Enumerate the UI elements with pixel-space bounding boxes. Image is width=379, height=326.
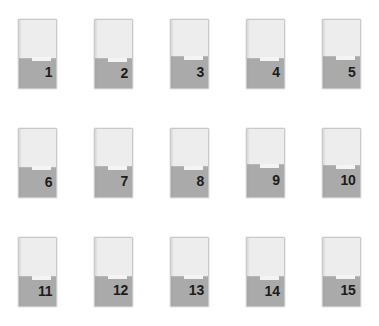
card-number-label-9: 9 [272, 173, 280, 187]
card-label-stripe-10 [336, 165, 355, 169]
numbered-card-14[interactable]: 14 [246, 237, 285, 307]
card-number-label-8: 8 [196, 174, 204, 188]
numbered-card-11[interactable]: 11 [18, 237, 57, 307]
card-label-stripe-9 [260, 164, 279, 168]
card-label-stripe-6 [32, 166, 51, 170]
card-number-label-3: 3 [196, 65, 204, 79]
numbered-card-10[interactable]: 10 [322, 128, 361, 198]
grid-cell-11: 11 [0, 217, 76, 326]
card-label-stripe-3 [184, 56, 203, 60]
numbered-card-1[interactable]: 1 [18, 19, 57, 89]
grid-cell-2: 2 [76, 0, 152, 109]
grid-cell-13: 13 [152, 217, 228, 326]
numbered-card-6[interactable]: 6 [18, 128, 57, 198]
grid-cell-1: 1 [0, 0, 76, 109]
card-number-label-1: 1 [45, 65, 53, 79]
card-label-stripe-14 [260, 276, 279, 280]
card-label-stripe-8 [184, 166, 203, 170]
card-grid-canvas: 1 2 3 4 [0, 0, 379, 326]
grid-cell-3: 3 [152, 0, 228, 109]
numbered-card-15[interactable]: 15 [322, 237, 361, 307]
card-label-stripe-11 [32, 276, 51, 280]
grid-cell-15: 15 [303, 217, 379, 326]
card-grid: 1 2 3 4 [0, 0, 379, 326]
grid-cell-8: 8 [152, 109, 228, 218]
grid-cell-5: 5 [303, 0, 379, 109]
card-label-stripe-5 [336, 56, 355, 60]
numbered-card-12[interactable]: 12 [94, 237, 133, 307]
card-label-stripe-7 [108, 166, 127, 170]
numbered-card-7[interactable]: 7 [94, 128, 133, 198]
grid-cell-9: 9 [227, 109, 303, 218]
numbered-card-2[interactable]: 2 [94, 19, 133, 89]
card-number-label-11: 11 [38, 284, 52, 298]
card-label-stripe-1 [32, 57, 51, 61]
card-number-label-10: 10 [340, 173, 355, 187]
numbered-card-9[interactable]: 9 [246, 128, 285, 198]
card-number-label-5: 5 [348, 65, 356, 79]
card-number-label-14: 14 [265, 284, 280, 298]
card-number-label-4: 4 [272, 65, 280, 79]
numbered-card-8[interactable]: 8 [170, 128, 209, 198]
card-number-label-13: 13 [189, 283, 204, 297]
card-number-label-7: 7 [121, 174, 129, 188]
numbered-card-3[interactable]: 3 [170, 19, 209, 89]
card-label-stripe-2 [108, 58, 127, 62]
numbered-card-13[interactable]: 13 [170, 237, 209, 307]
grid-cell-4: 4 [227, 0, 303, 109]
grid-cell-14: 14 [227, 217, 303, 326]
card-number-label-12: 12 [113, 283, 128, 297]
numbered-card-4[interactable]: 4 [246, 19, 285, 89]
card-label-stripe-4 [260, 57, 279, 61]
card-label-stripe-15 [336, 275, 355, 279]
card-number-label-2: 2 [121, 66, 129, 80]
grid-cell-6: 6 [0, 109, 76, 218]
numbered-card-5[interactable]: 5 [322, 19, 361, 89]
card-label-stripe-12 [108, 275, 127, 279]
card-number-label-6: 6 [45, 175, 53, 189]
grid-cell-12: 12 [76, 217, 152, 326]
card-label-stripe-13 [184, 275, 203, 279]
grid-cell-7: 7 [76, 109, 152, 218]
card-number-label-15: 15 [340, 283, 355, 297]
grid-cell-10: 10 [303, 109, 379, 218]
